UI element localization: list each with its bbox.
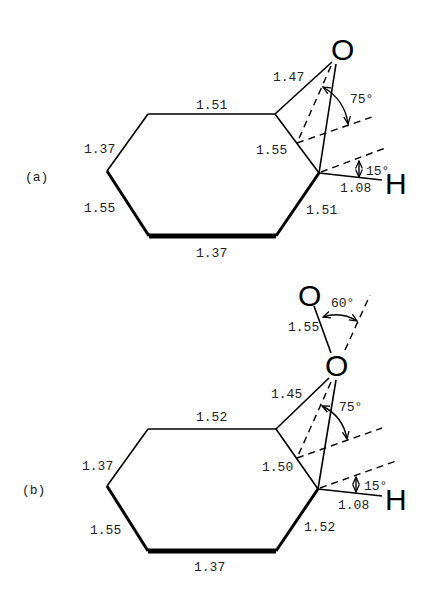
ring-a xyxy=(107,114,319,236)
bond-label-lower-left: 1.55 xyxy=(90,523,121,538)
bond-c-o-2 xyxy=(319,64,336,173)
bond-label-bottom: 1.37 xyxy=(194,560,225,575)
bond-label-upper-left: 1.37 xyxy=(82,459,113,474)
angle-arc-60 xyxy=(323,315,357,321)
panel-label-b: (b) xyxy=(22,483,45,498)
diagram-canvas: (a) O H 1.51 1.37 1.55 1.37 1.51 1. xyxy=(0,0,428,595)
bond-label-upper-right: 1.50 xyxy=(262,460,293,475)
bond-label-c-h: 1.08 xyxy=(338,498,369,513)
bond-label-c-h: 1.08 xyxy=(340,181,371,196)
atom-hydrogen: H xyxy=(385,483,407,516)
bond-label-top: 1.52 xyxy=(196,410,227,425)
ring-b xyxy=(107,429,318,551)
bond-c-o xyxy=(276,378,329,429)
angle-label-60: 60° xyxy=(331,296,354,311)
angle-label-15: 15° xyxy=(366,164,389,179)
bond-label-lower-left: 1.55 xyxy=(84,201,115,216)
angle-label-75: 75° xyxy=(339,400,362,415)
bond-lower-left xyxy=(107,486,148,551)
angle-label-15: 15° xyxy=(364,479,387,494)
bond-upper-right xyxy=(276,429,318,489)
bond-c-o-2 xyxy=(318,380,336,489)
bond-upper-left xyxy=(107,429,148,486)
bond-label-o-o: 1.55 xyxy=(288,320,319,335)
atom-oxygen-inner: O xyxy=(325,349,348,382)
atom-oxygen: O xyxy=(331,33,354,66)
atom-oxygen-outer: O xyxy=(298,279,321,312)
bond-label-c-o: 1.47 xyxy=(273,70,304,85)
dash-ring-plane xyxy=(297,117,372,143)
bond-label-bottom: 1.37 xyxy=(196,246,227,261)
bond-label-lower-right: 1.51 xyxy=(306,203,337,218)
bond-label-upper-right: 1.55 xyxy=(256,143,287,158)
panel-label-a: (a) xyxy=(25,170,48,185)
angle-label-75: 75° xyxy=(350,92,373,107)
panel-a: (a) O H 1.51 1.37 1.55 1.37 1.51 1. xyxy=(25,33,407,261)
bond-label-top: 1.51 xyxy=(196,98,227,113)
panel-b: (b) O O H 1.52 1.37 1.55 xyxy=(22,279,407,575)
bond-label-c-o: 1.45 xyxy=(271,387,302,402)
bond-label-upper-left: 1.37 xyxy=(84,142,115,157)
bond-label-lower-right: 1.52 xyxy=(304,520,335,535)
dash-ring-plane xyxy=(297,428,382,458)
